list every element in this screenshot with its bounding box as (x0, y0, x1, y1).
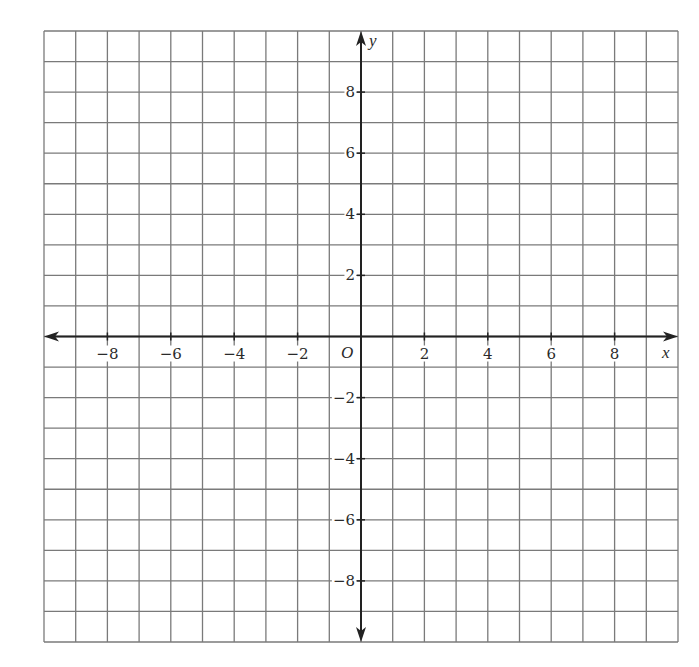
x-tick-label: −8 (96, 345, 118, 363)
x-axis-label: x (661, 343, 670, 362)
y-axis-label: y (367, 31, 377, 50)
x-tick-label: −6 (160, 345, 182, 363)
x-tick-label: 2 (420, 345, 430, 363)
origin-label: O (341, 343, 353, 362)
y-tick-label: 6 (345, 144, 355, 162)
x-tick-label: 8 (610, 345, 620, 363)
x-tick-label: 4 (483, 345, 493, 363)
y-tick-label: −8 (333, 572, 355, 590)
y-tick-label: 2 (345, 266, 355, 284)
y-tick-label: −4 (333, 450, 355, 468)
y-tick-label: −2 (333, 389, 355, 407)
y-tick-label: −6 (333, 511, 355, 529)
x-tick-label: −2 (287, 345, 309, 363)
y-tick-label: 8 (345, 83, 355, 101)
y-tick-label: 4 (345, 205, 355, 223)
x-tick-label: −4 (223, 345, 245, 363)
coordinate-plane: −8−6−4−224688642−2−4−6−8 x y O (0, 0, 699, 667)
x-tick-label: 6 (546, 345, 556, 363)
